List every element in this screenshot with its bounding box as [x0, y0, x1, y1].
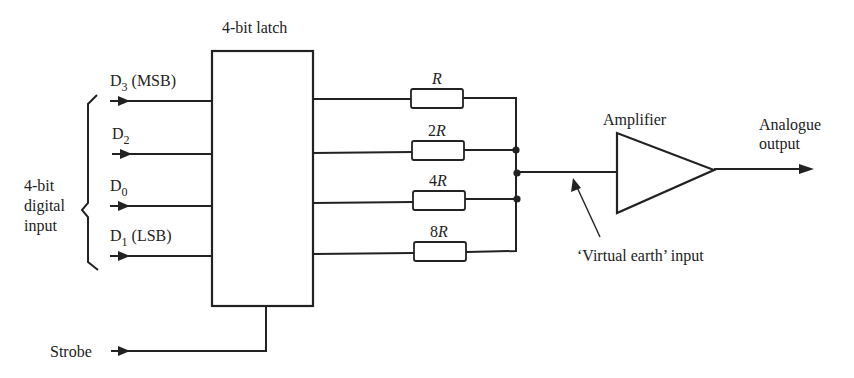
- resistor-4r-label: 4R: [429, 172, 447, 189]
- input-group-label-3: input: [24, 217, 57, 235]
- input-d3-label: D3 (MSB): [110, 72, 176, 94]
- amplifier-triangle: [617, 133, 714, 213]
- output-label-2: output: [759, 135, 800, 153]
- resistor-8r-label: 8R: [430, 223, 448, 240]
- arrow-icon: [118, 346, 130, 356]
- virtual-earth-label: ‘Virtual earth’ input: [577, 247, 704, 265]
- resistor-r: R: [411, 70, 463, 108]
- arrow-icon: [118, 201, 130, 211]
- junction-dot: [512, 146, 519, 153]
- resistor-r-label: R: [431, 70, 442, 87]
- amplifier-label: Amplifier: [603, 111, 667, 129]
- latch-label: 4-bit latch: [222, 19, 287, 36]
- output-label-1: Analogue: [759, 116, 821, 134]
- junction-dot: [513, 195, 520, 202]
- resistor-2r-label: 2R: [428, 122, 446, 139]
- input-d2-label: D2: [112, 125, 130, 147]
- input-d0-label: D0: [110, 177, 128, 199]
- input-d2: D2: [112, 125, 212, 159]
- input-d1: D1 (LSB): [110, 227, 212, 261]
- arrow-icon: [120, 149, 132, 159]
- input-group-label-1: 4-bit: [24, 177, 55, 194]
- arrow-icon: [118, 96, 130, 106]
- resistor-8r: 8R: [414, 223, 466, 261]
- strobe-label: Strobe: [50, 343, 92, 360]
- input-group-label-2: digital: [24, 197, 65, 215]
- strobe-input: Strobe: [50, 306, 266, 360]
- input-brace: [82, 95, 98, 270]
- input-d3: D3 (MSB): [110, 72, 212, 106]
- dac-diagram: 4-bit latch 4-bit digital input D3 (MSB)…: [0, 0, 854, 378]
- resistor-4r: 4R: [413, 172, 465, 210]
- input-d1-label: D1 (LSB): [110, 227, 172, 249]
- arrow-icon: [799, 164, 814, 174]
- input-d0: D0: [110, 177, 212, 211]
- summing-bus: [463, 98, 516, 252]
- arrow-icon: [571, 178, 581, 192]
- resistor-2r: 2R: [412, 122, 464, 160]
- latch-box: [212, 51, 313, 306]
- arrow-icon: [118, 251, 130, 261]
